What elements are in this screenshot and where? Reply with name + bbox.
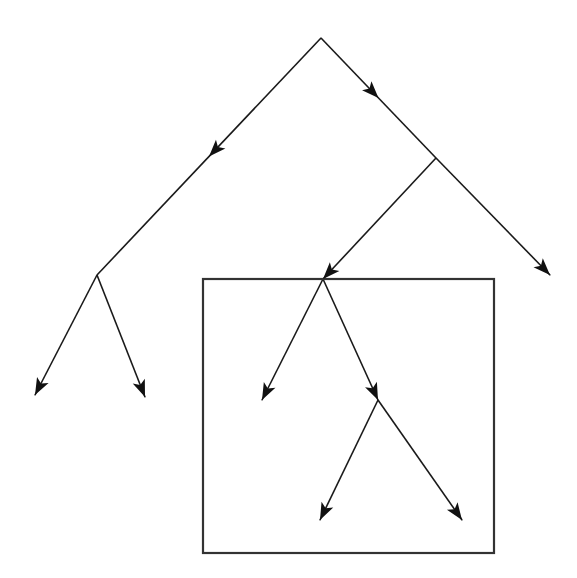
edge-boxtop-to-leaf-boxl-arrowhead-icon bbox=[262, 382, 275, 400]
edge-boxmid-to-bottom-r bbox=[378, 400, 462, 520]
diagram-canvas bbox=[0, 0, 577, 578]
root-node bbox=[320, 37, 321, 38]
level2-left-node bbox=[96, 274, 97, 275]
edge-left-to-leaf-ll bbox=[35, 275, 97, 395]
tree-diagram bbox=[0, 0, 577, 578]
edge-left-to-leaf-ll-arrowhead-icon bbox=[35, 377, 49, 395]
edge-left-to-leaf-lr bbox=[97, 275, 145, 397]
level2-right-node bbox=[435, 157, 436, 158]
arrowheads-layer bbox=[35, 81, 550, 520]
edge-right-to-boxtop bbox=[323, 158, 436, 279]
edge-boxmid-to-bottom-l bbox=[320, 400, 378, 520]
edge-right-to-leaf-rr bbox=[436, 158, 550, 275]
edge-boxmid-to-bottom-r-arrowhead-icon bbox=[447, 502, 462, 520]
edge-boxtop-to-boxmid bbox=[323, 279, 378, 400]
edge-boxtop-to-leaf-boxl bbox=[262, 279, 323, 400]
